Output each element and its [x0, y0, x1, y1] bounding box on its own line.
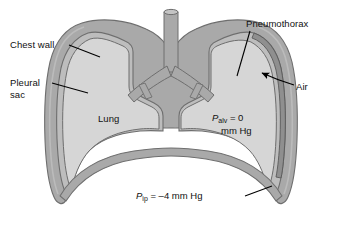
palv-value: = 0	[227, 112, 243, 123]
pip-subscript: ip	[142, 195, 147, 202]
label-chest-wall: Chest wall	[10, 39, 54, 51]
label-alveolar-pressure: Palv = 0 mm Hg	[212, 112, 252, 136]
pneumothorax-figure: Chest wall Pleural sac Pneumothorax Air …	[0, 0, 342, 225]
trachea-top-opening	[164, 9, 178, 14]
palv-subscript: alv	[218, 117, 227, 124]
pip-value: = –4 mm Hg	[148, 190, 203, 201]
label-pleural-sac: Pleural sac	[10, 77, 40, 100]
label-intrapleural-pressure: Pip = –4 mm Hg	[136, 190, 202, 203]
trachea	[164, 12, 178, 72]
palv-units: mm Hg	[212, 125, 252, 137]
label-pneumothorax: Pneumothorax	[246, 18, 308, 30]
label-lung: Lung	[98, 113, 119, 125]
label-air: Air	[296, 81, 308, 93]
